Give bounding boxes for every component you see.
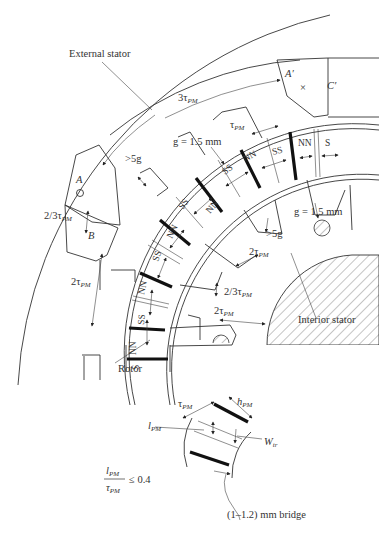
bolt-hole-2 xyxy=(213,335,229,343)
label-interior-stator: Interior stator xyxy=(298,314,356,325)
svg-text:≤ 0.4: ≤ 0.4 xyxy=(129,474,151,485)
label-gt5g-2: >5g xyxy=(266,228,283,239)
magnet-bar-1 xyxy=(290,132,296,180)
detail-label-h-pm: hPM xyxy=(237,396,254,409)
detail-label-w-tr: Wtr xyxy=(264,436,278,449)
pole-label: SS xyxy=(271,145,284,157)
pole-label: SS xyxy=(136,314,147,325)
detail-label-tau-pm: τPM xyxy=(178,398,194,411)
label-gap-inner: g = 1.5 mm xyxy=(294,206,343,217)
magnet-detail xyxy=(155,397,262,520)
pole-label: NN xyxy=(204,198,221,215)
label-phase-a: A xyxy=(75,174,83,185)
pole-label: S xyxy=(325,138,330,148)
pole-label: NN xyxy=(136,280,149,296)
pole-label: NN xyxy=(298,138,312,148)
dual-stator-diagram: External stator A′ × C′ A B 3τPM τPM g =… xyxy=(0,0,379,546)
label-gt5g-1: >5g xyxy=(125,153,142,164)
interior-stator xyxy=(267,255,379,345)
detail-label-l-pm: lPM xyxy=(148,420,162,433)
label-two-thirds-tau-1: 2/3τPM xyxy=(44,210,73,223)
bolt-hole-1 xyxy=(314,220,330,236)
svg-text:τPM: τPM xyxy=(106,482,121,495)
pole-label: NN xyxy=(128,341,138,355)
label-two-tau-2: 2τPM xyxy=(249,246,270,259)
label-cross: × xyxy=(300,82,306,93)
label-phase-c-prime: C′ xyxy=(327,80,337,91)
label-two-tau-3: 2τPM xyxy=(214,305,235,318)
pole-label: SS xyxy=(150,249,163,262)
external-stator-bore-arc xyxy=(110,60,300,135)
label-tau: τPM xyxy=(230,119,246,132)
label-external-stator: External stator xyxy=(69,48,131,59)
label-two-thirds-tau-2: 2/3τPM xyxy=(224,286,253,299)
label-phase-b: B xyxy=(88,230,95,241)
ratio-formula: lPM τPM ≤ 0.4 xyxy=(104,465,151,495)
label-two-tau-1: 2τPM xyxy=(71,276,92,289)
external-stator-leader xyxy=(102,62,152,110)
label-gap-outer: g = 1.5 mm xyxy=(173,136,222,147)
outer-stator-teeth xyxy=(82,107,262,380)
pole-label: S xyxy=(131,365,141,370)
slot-a xyxy=(65,145,120,225)
pole-label: SS xyxy=(176,197,190,211)
detail-label-bridge: (1–1.2) mm bridge xyxy=(227,509,306,521)
label-phase-a-prime: A′ xyxy=(284,68,294,79)
svg-text:lPM: lPM xyxy=(106,465,120,478)
label-3tau: 3τPM xyxy=(178,92,199,105)
